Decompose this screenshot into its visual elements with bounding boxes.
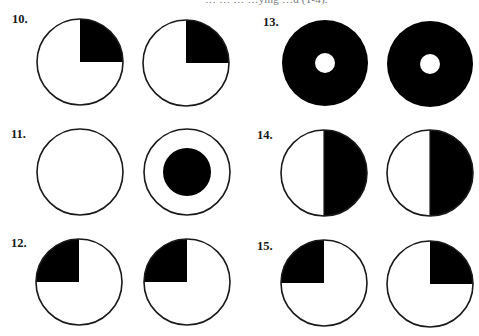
circle-figure-11-a: [37, 129, 123, 215]
circle-figure-15-b: [387, 241, 473, 327]
circle-figure-12-a: [36, 239, 122, 325]
figure-canvas: [0, 0, 479, 336]
circle-figure-13-a: [282, 20, 368, 106]
circle-figure-10-a: [37, 19, 123, 105]
circle-figure-14-b: [387, 130, 473, 216]
circle-figure-12-b: [144, 239, 230, 325]
circle-figure-15-a: [281, 240, 367, 326]
circle-figure-10-b: [143, 20, 229, 106]
circle-figure-11-b: [144, 129, 230, 215]
circle-figure-14-a: [281, 130, 367, 216]
circle-figure-13-b: [387, 21, 473, 107]
